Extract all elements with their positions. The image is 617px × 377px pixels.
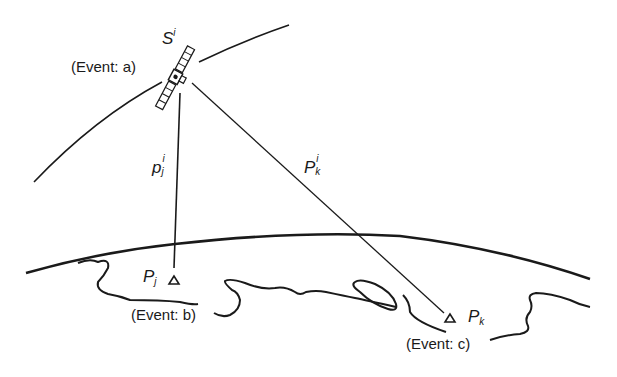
range-pk-label-sub: k xyxy=(315,166,320,177)
earth-horizon xyxy=(26,234,590,279)
station-pj-label-base: P xyxy=(143,267,154,286)
satellite-label: Si xyxy=(162,27,176,49)
station-pj-triangle-icon xyxy=(169,276,179,284)
event-b-label: (Event: b) xyxy=(131,306,196,323)
satellite-label-base: S xyxy=(162,29,173,48)
coastline-right xyxy=(490,293,590,340)
range-pj-label-sup: i xyxy=(162,153,164,164)
station-pj-label: Pj xyxy=(143,267,157,287)
range-pj-label-sub: j xyxy=(161,166,163,177)
event-c-label: (Event: c) xyxy=(406,335,470,352)
diagram-canvas: Si (Event: a) pij Pik Pj (Event: b) Pk (… xyxy=(0,0,617,377)
orbit-arc-right xyxy=(199,25,289,62)
station-pk-label-base: P xyxy=(468,307,479,326)
range-line-pk xyxy=(192,83,444,313)
satellite-label-sup: i xyxy=(173,27,175,38)
coastline-left xyxy=(78,260,198,304)
coastline-pk xyxy=(403,295,446,332)
diagram-svg xyxy=(0,0,617,377)
event-a-label: (Event: a) xyxy=(71,58,136,75)
range-pk-label-indices: ik xyxy=(315,172,323,173)
range-pk-label-base: P xyxy=(304,158,315,177)
range-pj-label: pij xyxy=(152,158,169,178)
station-pk-label-sub: k xyxy=(479,316,484,327)
coastline-bay xyxy=(214,280,396,316)
range-line-pj xyxy=(174,93,180,268)
orbit-arc-left xyxy=(34,82,162,182)
station-pk-triangle-icon xyxy=(445,314,455,322)
satellite-icon xyxy=(155,45,200,112)
range-pk-label-sup: i xyxy=(316,153,318,164)
station-pk-label: Pk xyxy=(468,307,484,327)
range-pk-label: Pik xyxy=(304,158,323,178)
station-pj-label-sub: j xyxy=(154,276,156,287)
range-pj-label-indices: ij xyxy=(161,172,169,173)
